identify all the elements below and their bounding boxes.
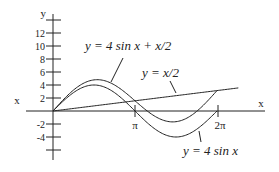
x-tick-label-2pi: 2π (214, 119, 226, 131)
y-tick-label-neg2: -2 (37, 119, 45, 130)
annotation-line: y = x/2 (140, 65, 179, 80)
y-tick-label-4: 4 (40, 80, 45, 91)
leader-line (170, 81, 176, 93)
y-tick-label-neg4: -4 (37, 132, 45, 143)
annotation-sin: y = 4 sin x (181, 143, 238, 158)
y-tick-label-12: 12 (35, 28, 45, 39)
y-tick-label-10: 10 (35, 41, 45, 52)
annotation-sum: y = 4 sin x + x/2 (83, 38, 172, 53)
curve-x-over-2 (53, 88, 238, 111)
leader-sin (199, 131, 201, 142)
x-tick-label-pi: π (132, 119, 138, 131)
y-tick-label-8: 8 (40, 54, 45, 65)
y-tick-label-6: 6 (40, 67, 45, 78)
chart-canvas: 12 10 8 6 4 2 -2 -4 y x x π 2π y = 4 sin… (0, 0, 279, 172)
y-tick-label-2: 2 (40, 93, 45, 104)
y-axis-label: y (41, 7, 47, 19)
left-x-label: x (14, 94, 20, 106)
x-axis-label: x (258, 97, 264, 109)
leader-sum (111, 58, 123, 82)
